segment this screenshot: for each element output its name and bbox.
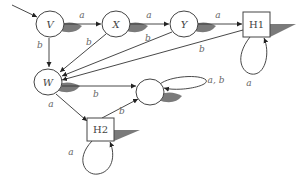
- label-y-h1: a: [215, 10, 220, 20]
- label-h1-w: b: [199, 44, 205, 54]
- node-s: [136, 79, 164, 105]
- edge-w-h2: [56, 94, 87, 121]
- node-w: W: [34, 69, 62, 95]
- label-h2-s: b: [119, 106, 125, 116]
- shadow-h2: [114, 130, 140, 141]
- label-h1-loop: a: [246, 78, 251, 88]
- node-w-label: W: [43, 77, 54, 88]
- edge-h2-loop: [83, 141, 113, 174]
- node-x: X: [102, 11, 130, 37]
- shadow-h1: [270, 24, 296, 37]
- node-v: V: [36, 11, 64, 37]
- edge-x-w: [60, 34, 106, 72]
- node-y: Y: [170, 11, 198, 37]
- node-h1-label: H1: [249, 19, 264, 30]
- node-h1: H1: [243, 12, 270, 37]
- label-v-w: b: [37, 40, 43, 50]
- label-y-w: b: [145, 33, 151, 43]
- node-h2-label: H2: [93, 124, 108, 135]
- edge-h1-loop: [241, 37, 267, 74]
- label-w-s: b: [93, 89, 99, 99]
- label-s-loop: a, b: [208, 75, 225, 85]
- label-x-y: a: [146, 10, 151, 20]
- node-x-label: X: [111, 19, 120, 30]
- label-h2-loop: a: [68, 147, 73, 157]
- label-v-x: a: [79, 10, 84, 20]
- label-w-h2: a: [48, 99, 53, 109]
- edge-s-loop: [160, 77, 206, 90]
- node-h2: H2: [87, 118, 114, 141]
- initial-arrow: [12, 5, 37, 17]
- automaton-diagram: V X Y H1 W H2 a a a b b b b a b a b a a,…: [0, 0, 306, 184]
- label-x-w: b: [86, 37, 92, 47]
